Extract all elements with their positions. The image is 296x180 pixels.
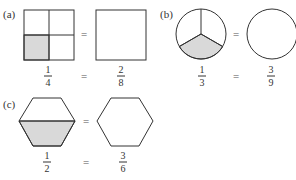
numerator: 1 [45, 150, 50, 161]
panel-c: (c) = 1 2 = 3 6 [3, 98, 153, 174]
equivalent-fractions-diagram: (a) = 1 4 = 2 8 (b) = 1 3 = [0, 0, 296, 180]
equals-sign: = [83, 115, 89, 127]
numerator: 3 [269, 64, 274, 75]
shaded-third [179, 34, 222, 59]
numerator: 3 [121, 150, 126, 161]
equals-sign: = [233, 28, 239, 40]
panel-a: (a) = 1 4 = 2 8 [3, 8, 146, 88]
shaded-half [19, 121, 75, 146]
fraction-left: 1 2 [43, 150, 51, 174]
square-right [96, 10, 146, 60]
circle-right [247, 9, 296, 59]
fraction-right: 3 9 [267, 64, 275, 88]
shaded-quarter [24, 35, 49, 60]
denominator: 8 [119, 77, 124, 88]
numerator: 1 [200, 64, 205, 75]
denominator: 9 [269, 77, 274, 88]
panel-b: (b) = 1 3 = 3 9 [160, 8, 296, 88]
hexagon-right [97, 98, 153, 146]
equals-sign: = [81, 70, 87, 82]
denominator: 4 [46, 77, 51, 88]
equals-sign: = [81, 28, 87, 40]
denominator: 6 [121, 163, 126, 174]
equals-sign: = [233, 70, 239, 82]
panel-label: (b) [160, 8, 173, 21]
numerator: 1 [46, 64, 51, 75]
fraction-right: 3 6 [119, 150, 127, 174]
denominator: 3 [200, 77, 205, 88]
numerator: 2 [119, 64, 124, 75]
fraction-left: 1 4 [44, 64, 52, 88]
panel-label: (a) [3, 8, 16, 21]
denominator: 2 [45, 163, 50, 174]
panel-label: (c) [3, 98, 16, 111]
equals-sign: = [83, 156, 89, 168]
fraction-right: 2 8 [117, 64, 125, 88]
fraction-left: 1 3 [198, 64, 206, 88]
